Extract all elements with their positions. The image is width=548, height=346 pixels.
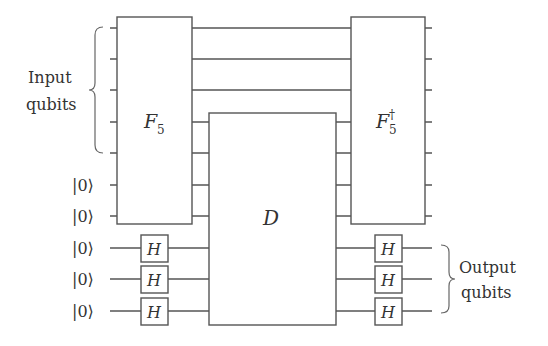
f5-dagger-superscript: † — [389, 108, 395, 122]
d-gate: D — [209, 113, 336, 325]
f5-dagger-gate: F 5 † — [351, 17, 425, 224]
ket-zero: |0⟩ — [72, 239, 94, 258]
f5-subscript: 5 — [157, 123, 165, 137]
f5-label: F — [143, 110, 158, 132]
h-label: H — [146, 303, 162, 322]
d-label: D — [262, 206, 279, 230]
h-label: H — [380, 303, 396, 322]
svg-text:qubits: qubits — [461, 283, 512, 302]
svg-text:Input: Input — [28, 68, 72, 87]
ket-zero: |0⟩ — [72, 207, 94, 226]
ket-zero: |0⟩ — [72, 176, 94, 195]
output-qubits-label: Output qubits — [459, 258, 516, 302]
h-gates-right: H H H — [375, 235, 402, 325]
h-label: H — [380, 240, 396, 259]
svg-text:Output: Output — [459, 258, 516, 277]
ancilla-kets: |0⟩ |0⟩ |0⟩ |0⟩ |0⟩ — [72, 176, 94, 321]
ket-zero: |0⟩ — [72, 270, 94, 289]
h-gates-left: H H H — [141, 235, 168, 325]
f5-dagger-subscript: 5 — [389, 123, 397, 137]
output-brace — [441, 245, 455, 313]
ket-zero: |0⟩ — [72, 302, 94, 321]
f5-dagger-label: F — [375, 110, 390, 132]
h-label: H — [380, 271, 396, 290]
quantum-circuit: F 5 D F 5 † H H H H H H Input qubits |0⟩ — [0, 0, 548, 346]
h-label: H — [146, 240, 162, 259]
f5-gate: F 5 — [117, 17, 192, 224]
h-label: H — [146, 271, 162, 290]
svg-text:qubits: qubits — [26, 95, 77, 114]
input-qubits-label: Input qubits — [26, 68, 77, 114]
input-brace — [89, 27, 103, 153]
